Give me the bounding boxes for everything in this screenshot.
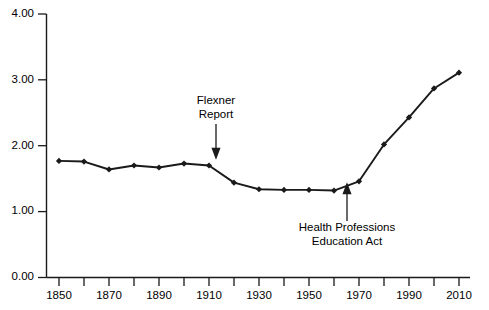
annotation-flexner: Flexner Report <box>161 94 271 121</box>
data-point <box>156 164 162 170</box>
flexner-arrow-head <box>212 149 219 159</box>
x-tick-label-1950: 1950 <box>283 290 335 302</box>
y-tick-label-1: 1.00 <box>0 205 34 217</box>
y-tick-label-3: 3.00 <box>0 74 34 86</box>
data-point <box>281 187 287 193</box>
data-point <box>331 187 337 193</box>
data-point-markers <box>56 70 462 194</box>
data-point <box>131 162 137 168</box>
data-point <box>306 187 312 193</box>
x-tick-label-1990: 1990 <box>383 290 435 302</box>
data-series-line <box>59 73 459 191</box>
x-tick-label-1930: 1930 <box>233 290 285 302</box>
annotation-arrows <box>212 124 350 221</box>
line-chart-plot <box>0 0 489 310</box>
y-tick-label-2: 2.00 <box>0 140 34 152</box>
x-axis-ticks <box>59 278 459 287</box>
y-tick-label-4: 4.00 <box>0 8 34 20</box>
x-tick-label-1870: 1870 <box>83 290 135 302</box>
x-tick-label-1890: 1890 <box>133 290 185 302</box>
chart-figure: 4.00 3.00 2.00 1.00 0.00 1850 1870 1890 … <box>0 0 489 310</box>
data-point <box>81 158 87 164</box>
data-point <box>106 166 112 172</box>
x-tick-label-1850: 1850 <box>33 290 85 302</box>
y-tick-label-0: 0.00 <box>0 271 34 283</box>
data-point <box>181 160 187 166</box>
data-point <box>56 158 62 164</box>
annotation-hpea-line2: Education Act <box>277 235 417 249</box>
y-axis-ticks <box>38 14 47 278</box>
annotation-hpea-line1: Health Professions <box>277 221 417 235</box>
x-tick-label-1910: 1910 <box>183 290 235 302</box>
data-point <box>256 186 262 192</box>
annotation-flexner-line1: Flexner <box>161 94 271 108</box>
annotation-hpea: Health Professions Education Act <box>277 221 417 248</box>
annotation-flexner-line2: Report <box>161 108 271 122</box>
x-tick-label-2010: 2010 <box>433 290 485 302</box>
x-tick-label-1970: 1970 <box>333 290 385 302</box>
